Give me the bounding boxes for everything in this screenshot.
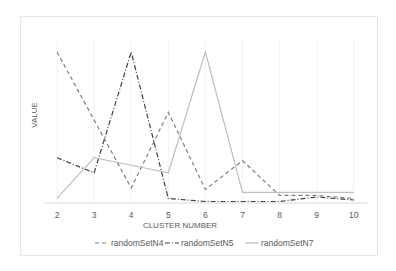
x-tick-label: 3 — [92, 210, 97, 220]
legend-item-randomSetN5: randomSetN5 — [165, 238, 234, 248]
x-axis-title: CLUSTER NUMBER — [143, 221, 217, 230]
x-tick-label: 7 — [240, 210, 245, 220]
y-axis-title: VALUE — [30, 102, 39, 128]
x-tick-label: 9 — [314, 210, 319, 220]
x-tick-label: 6 — [203, 210, 208, 220]
legend: randomSetN4randomSetN5randomSetN7 — [95, 238, 314, 248]
x-tick-label: 4 — [129, 210, 134, 220]
legend-item-randomSetN4: randomSetN4 — [95, 238, 164, 248]
x-tick-label: 10 — [349, 210, 359, 220]
x-tick-label: 2 — [55, 210, 60, 220]
legend-item-randomSetN7: randomSetN7 — [245, 238, 314, 248]
legend-label: randomSetN5 — [181, 238, 234, 248]
legend-label: randomSetN4 — [111, 238, 164, 248]
x-tick-labels: 2345678910 — [55, 210, 359, 220]
x-tick-label: 8 — [277, 210, 282, 220]
vertical-gridlines — [57, 40, 354, 203]
line-chart: 2345678910 CLUSTER NUMBER VALUE randomSe… — [0, 0, 396, 271]
x-tick-label: 5 — [166, 210, 171, 220]
legend-label: randomSetN7 — [261, 238, 314, 248]
